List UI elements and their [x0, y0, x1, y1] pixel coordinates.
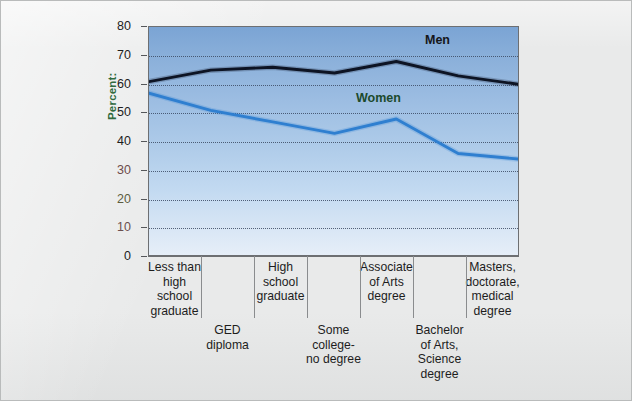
y-axis-tick-mark	[141, 141, 147, 142]
y-axis-tick-label: 70	[103, 49, 131, 62]
x-axis-label-lower: GED diploma	[189, 323, 265, 352]
x-axis-label-upper: High school graduate	[244, 260, 316, 304]
y-axis-tick-label: 0	[103, 250, 131, 263]
y-axis-tick-mark	[141, 84, 147, 85]
x-axis-label-upper: Associate of Arts degree	[350, 260, 422, 304]
y-axis-tick-label: 20	[103, 193, 131, 206]
x-axis-label-separator	[466, 256, 467, 318]
y-axis-tick-label: 30	[103, 164, 131, 177]
y-axis-tick-mark	[141, 55, 147, 56]
y-axis-tick-mark	[141, 112, 147, 113]
plot-area	[148, 26, 519, 256]
x-axis-label-lower: Bachelor of Arts, Science degree	[401, 323, 477, 381]
series-line-halo-women	[149, 93, 519, 159]
x-axis-label-lower: Some college- no degree	[295, 323, 371, 367]
y-axis-tick-mark	[141, 227, 147, 228]
y-axis-tick-mark	[141, 26, 147, 27]
y-axis-tick-label: 60	[103, 78, 131, 91]
y-axis-tick-label: 10	[103, 221, 131, 234]
y-axis-tick-mark	[141, 170, 147, 171]
x-axis-label-separator	[254, 256, 255, 318]
y-axis-tick-label: 40	[103, 135, 131, 148]
x-axis-label-upper: Masters, doctorate, medical degree	[456, 260, 528, 318]
series-lines	[149, 27, 519, 256]
series-label-men: Men	[425, 34, 450, 47]
x-axis-label-upper: Less than high school graduate	[138, 260, 210, 318]
x-axis-label-separator	[307, 256, 308, 318]
x-axis-label-separator	[413, 256, 414, 318]
y-axis-tick-mark	[141, 256, 147, 257]
chart-figure: Percent: 80706050403020100 Men Women Les…	[0, 0, 632, 401]
series-label-women: Women	[356, 92, 401, 105]
x-axis-label-separator	[360, 256, 361, 318]
y-axis-tick-label: 50	[103, 106, 131, 119]
x-axis-baseline	[148, 256, 519, 257]
x-axis-label-separator	[201, 256, 202, 318]
y-axis-tick-mark	[141, 199, 147, 200]
series-line-women	[149, 93, 519, 159]
y-axis-tick-label: 80	[103, 20, 131, 33]
